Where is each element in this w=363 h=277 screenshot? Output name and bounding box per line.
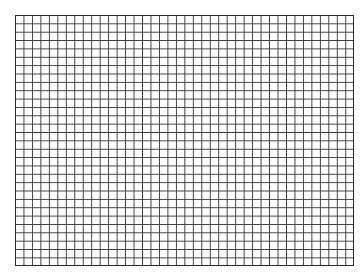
graph-paper-grid [15, 15, 354, 266]
